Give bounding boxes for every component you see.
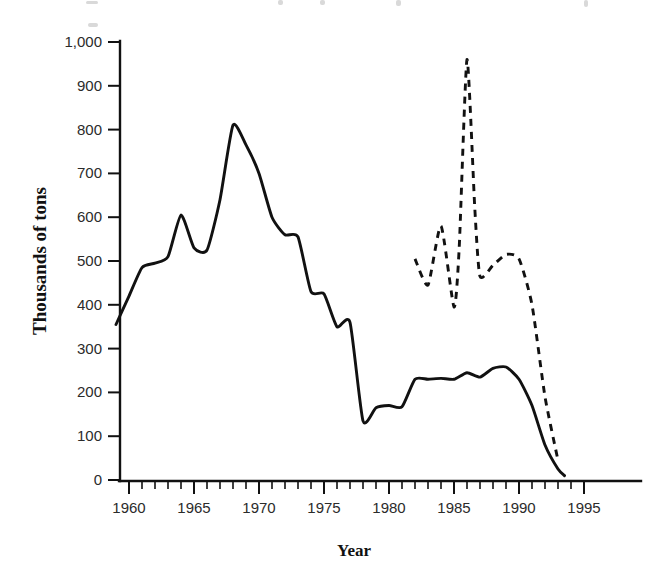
y-tick-label-200: 200 — [77, 383, 102, 400]
y-tick-label-400: 400 — [77, 296, 102, 313]
y-tick-labels: 1,000 900 800 700 600 500 400 300 200 10… — [64, 33, 102, 488]
x-tick-label-1965: 1965 — [177, 499, 210, 516]
x-axis-title: Year — [337, 541, 371, 560]
x-tick-labels: 1960 1965 1970 1975 1980 1985 1990 1995 — [112, 499, 600, 516]
y-tick-label-800: 800 — [77, 121, 102, 138]
x-tick-label-1975: 1975 — [307, 499, 340, 516]
series-solid-line — [116, 124, 565, 475]
x-tick-label-1970: 1970 — [242, 499, 275, 516]
y-tick-label-900: 900 — [77, 77, 102, 94]
y-tick-marks — [108, 42, 120, 480]
y-tick-label-1000: 1,000 — [64, 33, 102, 50]
data-series-group — [116, 59, 565, 475]
y-tick-label-300: 300 — [77, 340, 102, 357]
x-tick-label-1980: 1980 — [372, 499, 405, 516]
series-dashed-line — [415, 59, 558, 460]
x-tick-label-1985: 1985 — [437, 499, 470, 516]
x-tick-label-1995: 1995 — [567, 499, 600, 516]
line-chart-figure: 1,000 900 800 700 600 500 400 300 200 10… — [0, 0, 654, 578]
y-tick-label-700: 700 — [77, 164, 102, 181]
y-axis-title: Thousands of tons — [29, 187, 50, 335]
axis-group — [119, 41, 641, 481]
x-tick-label-1960: 1960 — [112, 499, 145, 516]
x-tick-label-1990: 1990 — [502, 499, 535, 516]
y-tick-label-100: 100 — [77, 427, 102, 444]
x-major-tick-marks — [129, 481, 584, 494]
y-tick-label-600: 600 — [77, 208, 102, 225]
y-tick-label-500: 500 — [77, 252, 102, 269]
y-tick-label-0: 0 — [94, 471, 102, 488]
scan-artifacts — [86, 0, 588, 27]
